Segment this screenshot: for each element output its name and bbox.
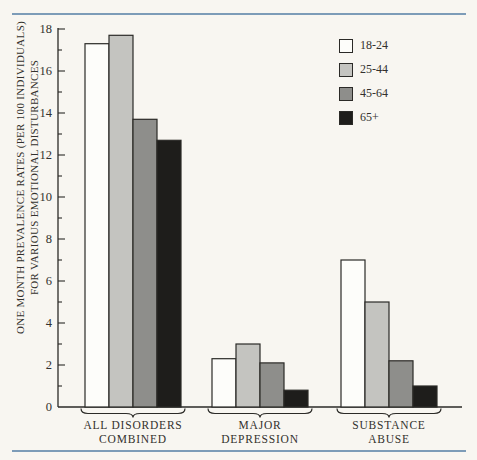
category-label-line: DEPRESSION (221, 433, 299, 447)
bar-18-24-0 (85, 44, 109, 407)
bar-65+-2 (413, 386, 437, 407)
bar-25-44-0 (109, 35, 133, 407)
legend-label: 45-64 (360, 86, 388, 101)
y-tick-label: 12 (40, 148, 53, 162)
bar-45-64-1 (260, 363, 284, 407)
category-label: ALL DISORDERSCOMBINED (83, 419, 182, 446)
legend-row: 18-24 (339, 39, 388, 52)
legend: 18-2425-4445-6465+ (339, 39, 388, 135)
legend-label: 18-24 (360, 38, 388, 53)
bar-65+-1 (284, 390, 308, 407)
legend-swatch-65+ (339, 111, 353, 125)
category-label-line: ALL DISORDERS (83, 419, 182, 433)
bar-chart: 024681012141618 (0, 0, 477, 460)
y-tick-label: 6 (46, 274, 52, 288)
legend-row: 25-44 (339, 63, 388, 76)
bar-25-44-1 (236, 344, 260, 407)
bar-25-44-2 (365, 302, 389, 407)
y-tick-label: 10 (40, 190, 53, 204)
y-tick-label: 14 (40, 106, 53, 120)
legend-label: 25-44 (360, 62, 388, 77)
bar-18-24-1 (212, 359, 236, 407)
bar-45-64-0 (133, 119, 157, 407)
bar-18-24-2 (341, 260, 365, 407)
legend-swatch-18-24 (339, 39, 353, 53)
category-label-line: COMBINED (83, 433, 182, 447)
bar-45-64-2 (389, 361, 413, 407)
category-label-line: SUBSTANCE (352, 419, 425, 433)
y-tick-label: 4 (46, 316, 53, 330)
legend-swatch-45-64 (339, 87, 353, 101)
legend-row: 65+ (339, 111, 388, 124)
category-label-line: ABUSE (352, 433, 425, 447)
y-tick-label: 18 (40, 22, 53, 36)
category-bracket (208, 409, 312, 418)
y-tick-label: 2 (46, 358, 52, 372)
category-bracket (81, 409, 185, 418)
y-tick-label: 0 (46, 400, 52, 414)
y-tick-label: 8 (46, 232, 52, 246)
legend-swatch-25-44 (339, 63, 353, 77)
category-label: MAJORDEPRESSION (221, 419, 299, 446)
category-label: SUBSTANCEABUSE (352, 419, 425, 446)
category-label-line: MAJOR (221, 419, 299, 433)
y-tick-label: 16 (40, 64, 53, 78)
legend-label: 65+ (360, 110, 379, 125)
legend-row: 45-64 (339, 87, 388, 100)
bar-65+-0 (157, 140, 181, 407)
category-bracket (337, 409, 441, 418)
